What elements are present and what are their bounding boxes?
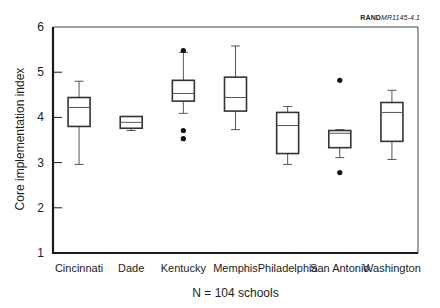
iqr-box [172,80,194,101]
outlier-point [181,128,186,133]
iqr-box [68,98,90,127]
outlier-point [337,170,342,175]
iqr-box [225,77,247,111]
outlier-point [181,48,186,53]
iqr-box [277,112,299,153]
outlier-point [181,136,186,141]
outlier-point [337,78,342,83]
box-plot [0,0,440,308]
iqr-box [381,102,403,141]
